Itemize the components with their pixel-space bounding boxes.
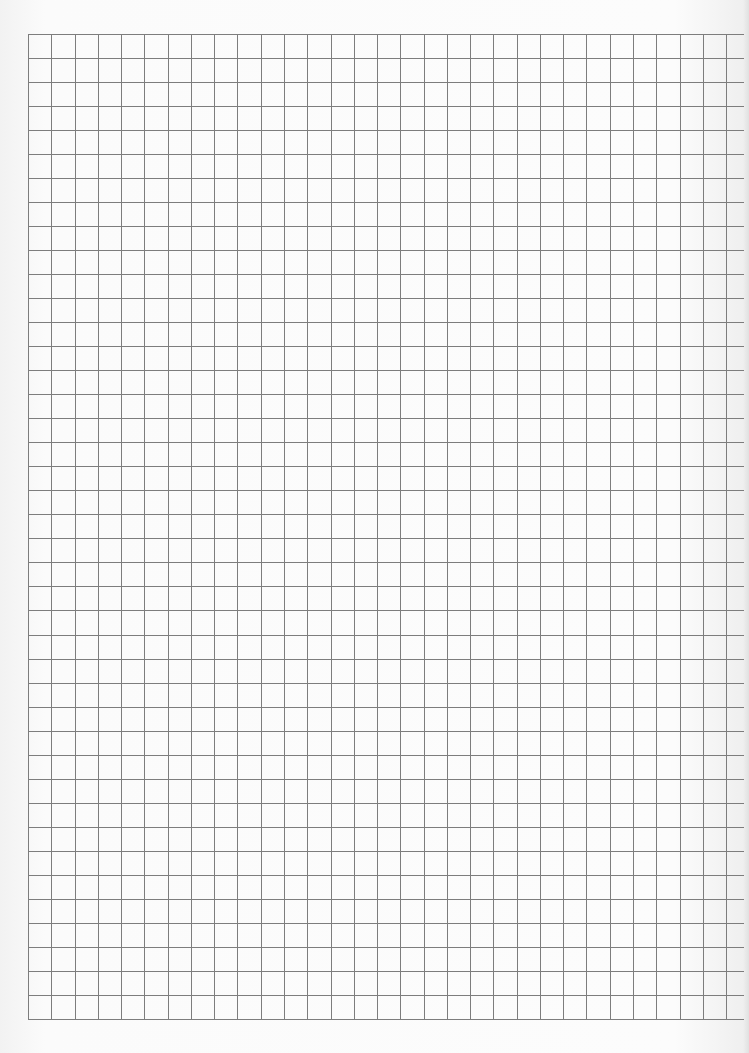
grid-line-group <box>28 34 744 1020</box>
graph-paper-sheet <box>0 0 749 1053</box>
grid-lines <box>0 0 749 1053</box>
page-edge-shadow <box>743 0 749 1053</box>
